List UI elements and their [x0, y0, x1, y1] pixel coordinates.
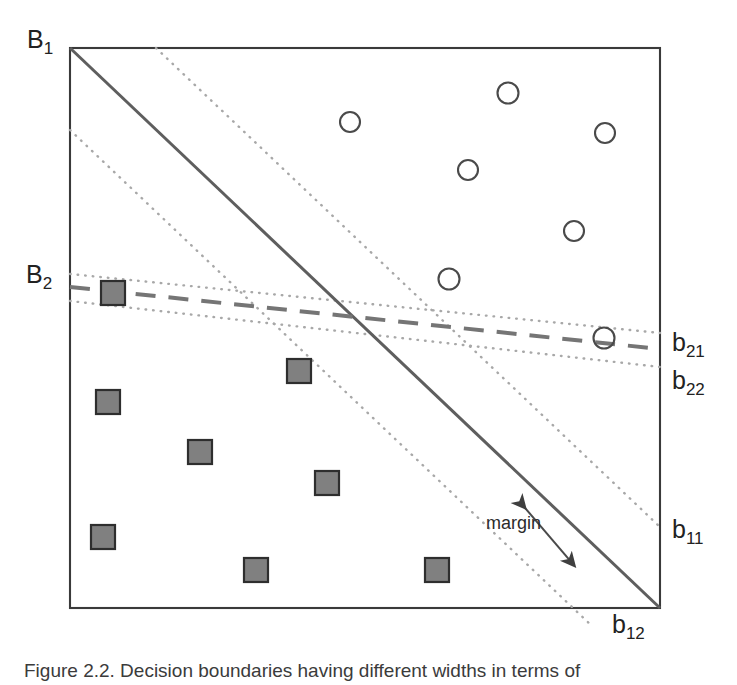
label-B1: B1 — [27, 27, 53, 52]
boundary-line-b22 — [70, 301, 660, 367]
decision-boundary-B2 — [70, 287, 660, 349]
class-squares-group — [91, 281, 449, 582]
label-B1-base: B — [27, 25, 44, 53]
figure-caption: Figure 2.2. Decision boundaries having d… — [24, 657, 724, 685]
data-point-circle — [340, 112, 360, 132]
label-margin: margin — [486, 514, 541, 532]
data-point-square — [425, 558, 449, 582]
label-b12: b12 — [612, 612, 645, 637]
label-b22: b22 — [672, 368, 705, 393]
data-point-square — [188, 440, 212, 464]
decision-boundary-B1 — [70, 48, 660, 608]
label-b21-subscript: 21 — [686, 342, 705, 361]
data-point-square — [96, 390, 120, 414]
data-point-circle — [439, 269, 460, 290]
boundary-line-b21 — [70, 274, 660, 333]
label-B2: B2 — [26, 262, 52, 287]
class-circles-group — [340, 83, 615, 349]
data-point-circle — [564, 221, 584, 241]
data-point-square — [91, 525, 115, 549]
label-b11: b11 — [672, 517, 704, 542]
data-point-square — [315, 471, 339, 495]
data-point-circle — [458, 160, 478, 180]
label-B2-base: B — [26, 260, 43, 288]
label-b12-base: b — [612, 610, 626, 638]
data-point-square — [244, 558, 268, 582]
boundary-line-b12 — [70, 130, 592, 626]
data-point-square — [287, 359, 311, 383]
label-B1-subscript: 1 — [44, 39, 53, 58]
label-b11-base: b — [672, 515, 686, 543]
data-point-square — [101, 281, 125, 305]
label-b11-subscript: 11 — [686, 529, 704, 548]
label-B2-subscript: 2 — [43, 274, 52, 293]
label-b22-base: b — [672, 366, 686, 394]
label-b21: b21 — [672, 330, 705, 355]
boundary-line-b11 — [156, 48, 660, 527]
data-point-circle — [498, 83, 519, 104]
data-point-circle — [594, 328, 615, 349]
label-b22-subscript: 22 — [686, 380, 705, 399]
label-b21-base: b — [672, 328, 686, 356]
data-point-circle — [595, 123, 615, 143]
label-b12-subscript: 12 — [626, 624, 645, 643]
